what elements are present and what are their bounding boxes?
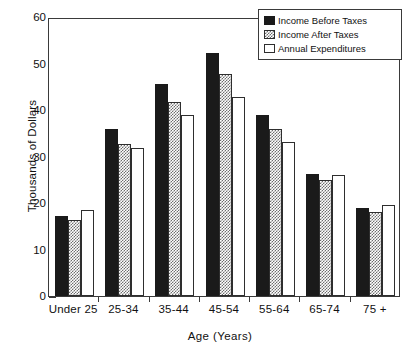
x-tick: [249, 297, 250, 302]
bar-expend[interactable]: [181, 115, 194, 296]
bar-after[interactable]: [319, 180, 332, 296]
bar-expend[interactable]: [131, 148, 144, 296]
bar-before[interactable]: [105, 129, 118, 296]
legend-swatch-icon: [264, 30, 275, 39]
x-tick: [299, 297, 300, 302]
bar-after[interactable]: [68, 220, 81, 296]
x-tick: [350, 297, 351, 302]
y-tick-label: 0: [6, 291, 46, 303]
x-tick-label: 75 +: [335, 303, 412, 315]
legend-label: Income Before Taxes: [278, 16, 367, 26]
x-tick: [98, 297, 99, 302]
bar-before[interactable]: [256, 115, 269, 296]
bar-before[interactable]: [356, 208, 369, 296]
bar-before[interactable]: [55, 216, 68, 296]
y-tick-label: 40: [6, 105, 46, 117]
bar-expend[interactable]: [232, 97, 245, 296]
legend-item[interactable]: Annual Expenditures: [264, 42, 396, 55]
bar-expend[interactable]: [382, 205, 395, 296]
bar-chart-figure: Thousands of Dollars 0102030405060 Under…: [0, 0, 412, 351]
bar-after[interactable]: [219, 74, 232, 296]
y-tick-label: 30: [6, 152, 46, 164]
legend-label: Income After Taxes: [278, 30, 359, 40]
y-tick-major: [49, 297, 56, 298]
legend-swatch-icon: [264, 16, 275, 25]
bar-expend[interactable]: [332, 175, 345, 296]
bar-before[interactable]: [306, 174, 319, 296]
x-tick: [149, 297, 150, 302]
x-tick: [199, 297, 200, 302]
bar-before[interactable]: [206, 53, 219, 296]
y-tick-label: 10: [6, 245, 46, 257]
bar-after[interactable]: [168, 102, 181, 296]
bar-expend[interactable]: [81, 210, 94, 296]
y-tick-label: 50: [6, 59, 46, 71]
y-tick-label: 20: [6, 198, 46, 210]
bar-after[interactable]: [269, 129, 282, 296]
legend-swatch-icon: [264, 44, 275, 53]
bar-after[interactable]: [118, 144, 131, 296]
legend-item[interactable]: Income After Taxes: [264, 28, 396, 41]
x-axis-title: Age (Years): [40, 330, 400, 342]
chart-legend: Income Before TaxesIncome After TaxesAnn…: [258, 9, 402, 60]
bar-after[interactable]: [369, 212, 382, 296]
legend-label: Annual Expenditures: [278, 44, 366, 54]
bar-expend[interactable]: [282, 142, 295, 296]
legend-item[interactable]: Income Before Taxes: [264, 14, 396, 27]
y-tick-label: 60: [6, 12, 46, 24]
bar-before[interactable]: [155, 84, 168, 296]
